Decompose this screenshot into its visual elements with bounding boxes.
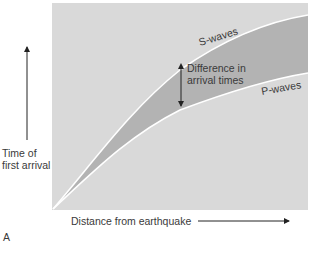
x-axis-label: Distance from earthquake — [71, 215, 191, 227]
difference-label-line2: arrival times — [187, 74, 244, 86]
y-axis-label-line1: Time of — [2, 147, 37, 159]
y-axis-label-line2: first arrival — [2, 159, 50, 171]
difference-label-line1: Difference in — [187, 62, 246, 74]
panel-label: A — [3, 231, 10, 243]
travel-time-diagram: S-waves P-waves Difference in arrival ti… — [0, 0, 311, 260]
